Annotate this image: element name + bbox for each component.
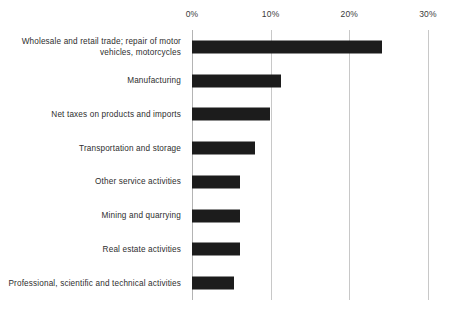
bar — [192, 277, 234, 290]
category-row: Wholesale and retail trade; repair of mo… — [0, 30, 186, 64]
bar-row — [192, 30, 428, 64]
x-tick-label: 0% — [186, 9, 199, 19]
bar-row — [192, 266, 428, 300]
category-row: Real estate activities — [0, 233, 186, 267]
bar — [192, 40, 382, 53]
bar — [192, 108, 270, 121]
bar-row — [192, 233, 428, 267]
category-row: Professional, scientific and technical a… — [0, 266, 186, 300]
category-row: Transportation and storage — [0, 131, 186, 165]
x-axis-tick-labels: 0%10%20%30% — [0, 0, 451, 30]
category-row: Other service activities — [0, 165, 186, 199]
bar — [192, 243, 240, 256]
bar — [192, 209, 240, 222]
category-label: Real estate activities — [103, 244, 186, 255]
bar-row — [192, 64, 428, 98]
category-row: Manufacturing — [0, 64, 186, 98]
bar — [192, 142, 255, 155]
category-label: Manufacturing — [127, 75, 186, 86]
bar-chart: 0%10%20%30% Wholesale and retail trade; … — [0, 0, 451, 322]
x-tick-label: 10% — [262, 9, 280, 19]
category-label: Other service activities — [95, 176, 186, 187]
bar-row — [192, 131, 428, 165]
plot-area — [192, 30, 428, 300]
category-label: Mining and quarrying — [102, 210, 186, 221]
y-axis-category-labels: Wholesale and retail trade; repair of mo… — [0, 30, 186, 300]
bar — [192, 175, 240, 188]
bar-row — [192, 98, 428, 132]
bar — [192, 74, 281, 87]
gridline-30pct — [428, 30, 429, 300]
x-tick-label: 30% — [419, 9, 437, 19]
category-row: Mining and quarrying — [0, 199, 186, 233]
category-label: Net taxes on products and imports — [51, 109, 186, 120]
category-label: Professional, scientific and technical a… — [8, 278, 186, 289]
bar-row — [192, 199, 428, 233]
category-label: Wholesale and retail trade; repair of mo… — [0, 36, 186, 58]
bar-row — [192, 165, 428, 199]
category-row: Net taxes on products and imports — [0, 98, 186, 132]
category-label: Transportation and storage — [79, 143, 186, 154]
x-tick-label: 20% — [341, 9, 359, 19]
